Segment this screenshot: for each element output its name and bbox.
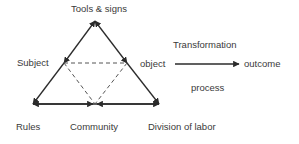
label-subject: Subject — [17, 58, 49, 68]
inner-dashed-triangle — [64, 63, 127, 104]
label-outcome: outcome — [244, 59, 280, 69]
label-transformation: Transformation — [173, 40, 237, 50]
label-division-of-labor: Division of labor — [148, 122, 216, 132]
label-community: Community — [70, 122, 118, 132]
label-object: object — [140, 59, 165, 69]
label-process: process — [191, 83, 224, 93]
label-rules: Rules — [16, 122, 40, 132]
label-tools-signs: Tools & signs — [71, 4, 127, 14]
activity-theory-diagram: Tools & signs Subject object outcome Tra… — [0, 0, 299, 144]
